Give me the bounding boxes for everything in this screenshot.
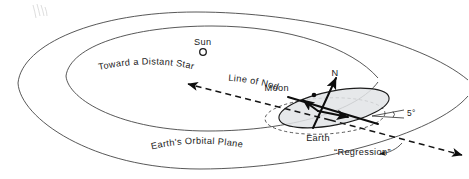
moon-orbit-ellipse-shape [276,81,392,136]
scan-smudge-artifact [33,4,47,18]
label-toward-a-distant-star: Toward a Distant Star [0,0,211,78]
moon-dot-icon [312,93,317,98]
label-earth: Earth [306,133,330,143]
outer-ellipse-shape [18,12,468,169]
sun-circle-icon [200,49,207,56]
label-moon: Moon [265,83,289,93]
label-north-pole: N [332,68,339,78]
label-inclination-angle: 5° [407,108,416,118]
label-sun: Sun [194,37,211,47]
lunar-node-regression-diagram: Sun Toward a Distant Star Line of Nodes … [0,0,469,179]
label-regression: “Regression” [334,147,391,157]
diagram-canvas: Sun Toward a Distant Star Line of Nodes … [0,0,469,179]
